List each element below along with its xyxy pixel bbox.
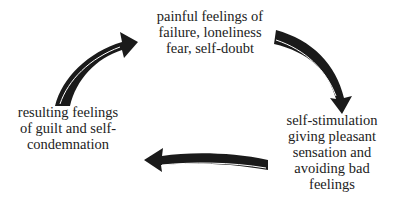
node-text-line: resulting feelings	[0, 104, 136, 120]
node-text-line: painful feelings of	[140, 8, 280, 24]
node-text-line: sensation and	[268, 144, 395, 160]
arrow-top-to-right	[274, 30, 352, 114]
arrow-left-to-top	[55, 32, 138, 106]
node-self-stimulation: self-stimulation giving pleasant sensati…	[268, 112, 395, 192]
node-text-line: of guilt and self-	[0, 120, 136, 136]
node-text-line: feelings	[268, 176, 395, 192]
node-text-line: self-stimulation	[268, 112, 395, 128]
node-text-line: failure, loneliness	[140, 24, 280, 40]
node-text-line: giving pleasant	[268, 128, 395, 144]
node-guilt: resulting feelings of guilt and self- co…	[0, 104, 136, 152]
node-text-line: fear, self-doubt	[140, 40, 280, 56]
arrow-right-to-left	[144, 148, 268, 172]
node-text-line: avoiding bad	[268, 160, 395, 176]
node-painful-feelings: painful feelings of failure, loneliness …	[140, 8, 280, 56]
node-text-line: condemnation	[0, 136, 136, 152]
